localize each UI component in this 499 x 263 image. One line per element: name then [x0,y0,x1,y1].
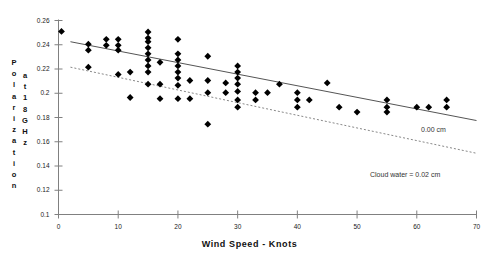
y-axis-tick-label: 0.2 [24,89,50,96]
data-point [85,47,92,54]
data-point [204,89,211,96]
y-axis-title-primary: P o l a r i z a t i o n [9,57,19,191]
data-point [175,95,182,102]
data-point [294,104,301,111]
chart-container: P o l a r i z a t i o n a t 1 8 G H z 0.… [0,0,499,263]
data-point [222,89,229,96]
data-point [324,80,331,87]
data-point [252,89,259,96]
data-point [115,71,122,78]
data-point [264,89,271,96]
y-axis-tick-label: 0.24 [24,41,50,48]
data-point [85,41,92,48]
data-point [145,38,152,45]
x-axis-tick-label: 30 [228,223,248,230]
x-axis-tick-label: 40 [287,223,307,230]
trend-line-dashed [70,67,476,153]
y-axis-tick-label: 0.16 [24,138,50,145]
data-point [222,80,229,87]
data-point [103,36,110,43]
data-point [443,97,450,104]
y-axis-tick-label: 0.26 [24,17,50,24]
data-point [384,109,391,116]
series-label-dashed: Cloud water = 0.02 cm [370,171,440,178]
data-point [157,95,164,102]
data-point [175,50,182,57]
x-axis-tick-label: 0 [49,223,69,230]
data-point [127,69,134,76]
y-axis-tick-label: 0.1 [24,211,50,218]
data-point [294,89,301,96]
data-point [115,47,122,54]
data-point [145,44,152,51]
y-axis-tick-label: 0.12 [24,186,50,193]
y-axis-tick-label: 0.18 [24,114,50,121]
data-point [234,63,241,70]
data-point [443,104,450,111]
data-point [234,75,241,82]
x-axis-tick-label: 10 [108,223,128,230]
data-point [175,69,182,76]
x-axis-tick-label: 60 [407,223,427,230]
data-point [175,36,182,43]
series-label-solid: 0.00 cm [421,126,446,133]
data-point [127,94,134,101]
data-point [186,77,193,84]
data-point [145,69,152,76]
data-point [204,77,211,84]
data-point [85,64,92,71]
data-point [294,97,301,104]
data-point [306,97,313,104]
x-axis-tick-label: 50 [347,223,367,230]
data-point [354,109,361,116]
data-point [145,29,152,36]
data-point [336,104,343,111]
x-axis-tick-label: 20 [168,223,188,230]
data-point [204,53,211,60]
data-point [175,63,182,70]
data-point [175,75,182,82]
data-point [425,104,432,111]
x-axis-title: Wind Speed - Knots [0,239,499,249]
x-axis-tick-label: 70 [467,223,487,230]
data-point [234,104,241,111]
data-point [58,28,65,35]
data-point [234,81,241,88]
data-point [252,97,259,104]
y-axis-title-secondary: a t 1 8 G H z [20,70,30,148]
y-axis-tick-label: 0.22 [24,65,50,72]
data-point [186,95,193,102]
data-point [175,82,182,89]
data-point [145,63,152,70]
data-point [204,121,211,128]
data-point [234,88,241,95]
data-point [115,36,122,43]
y-axis-tick-label: 0.14 [24,162,50,169]
data-point [145,81,152,88]
